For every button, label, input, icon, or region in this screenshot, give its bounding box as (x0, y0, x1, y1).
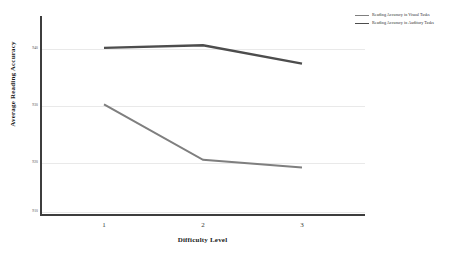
legend-item-visual: Reading Accuracy in Visual Tasks (355, 12, 467, 19)
legend-swatch-auditory (355, 23, 369, 25)
series-line-auditory (104, 45, 302, 63)
legend-label-visual: Reading Accuracy in Visual Tasks (372, 13, 430, 17)
legend-item-auditory: Reading Accuracy in Auditory Tasks (355, 20, 467, 27)
legend-label-auditory: Reading Accuracy in Auditory Tasks (372, 21, 434, 25)
chart-legend: Reading Accuracy in Visual Tasks Reading… (355, 12, 467, 28)
series-layer (0, 0, 467, 258)
series-line-visual (104, 104, 302, 167)
line-chart-figure: 940 930 920 910 1 2 3 Difficulty Level A… (0, 0, 467, 258)
legend-swatch-visual (355, 15, 369, 17)
